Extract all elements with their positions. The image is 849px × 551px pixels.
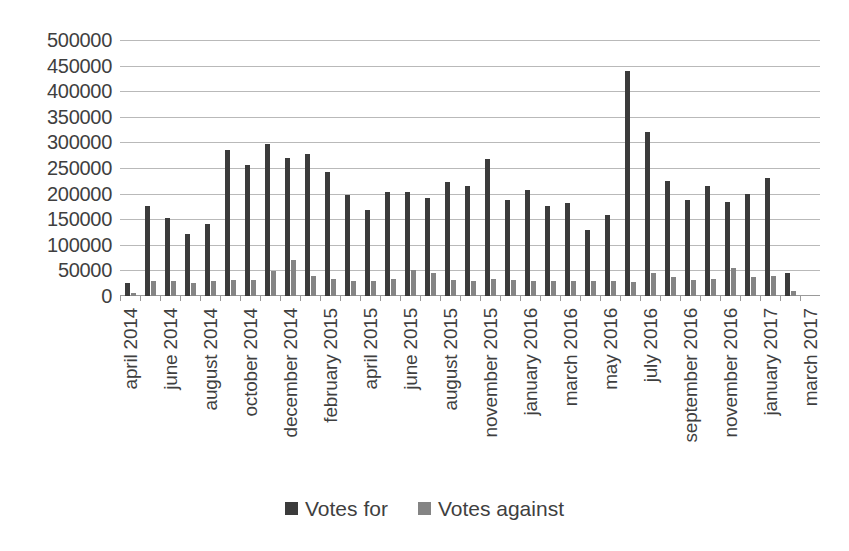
x-axis-tick (600, 296, 620, 302)
bar-group (600, 40, 620, 296)
x-axis-label-cell: january 2017 (760, 304, 780, 479)
x-axis-label: december 2014 (281, 308, 300, 437)
x-axis-tick (400, 296, 420, 302)
legend-item[interactable]: Votes for (285, 498, 388, 519)
x-axis-label-cell: may 2016 (600, 304, 620, 479)
x-axis-label-cell (220, 304, 240, 479)
bar-group (220, 40, 240, 296)
bar-votes-against (671, 277, 676, 296)
bars-layer (120, 40, 820, 296)
bar-votes-against (771, 276, 776, 296)
x-axis-tick (140, 296, 160, 302)
x-axis-label-cell: february 2015 (320, 304, 340, 479)
bar-votes-for (745, 194, 750, 296)
x-axis-tick (340, 296, 360, 302)
bar-votes-against (531, 281, 536, 296)
y-axis-tick-label: 150000 (47, 209, 112, 229)
bar-votes-for (605, 215, 610, 296)
x-axis-label: august 2015 (441, 308, 460, 410)
x-axis-label: january 2017 (761, 308, 780, 415)
x-axis-tick (620, 296, 640, 302)
x-axis-label-cell: april 2014 (120, 304, 140, 479)
x-axis-tick (780, 296, 800, 302)
bar-votes-against (431, 273, 436, 296)
bar-votes-for (545, 206, 550, 296)
x-axis-label-cell: august 2015 (440, 304, 460, 479)
x-axis-label-cell: april 2015 (360, 304, 380, 479)
x-axis-tick (280, 296, 300, 302)
bar-votes-against (311, 276, 316, 296)
x-axis-label-cell: november 2015 (480, 304, 500, 479)
bar-votes-for (225, 150, 230, 296)
bar-votes-for (425, 198, 430, 296)
bar-group (720, 40, 740, 296)
x-axis-tick (320, 296, 340, 302)
y-axis-tick-label: 50000 (58, 260, 112, 280)
x-axis-label-cell (780, 304, 800, 479)
bar-group (340, 40, 360, 296)
bar-group (400, 40, 420, 296)
bar-votes-against (691, 280, 696, 296)
x-axis-label-cell: november 2016 (720, 304, 740, 479)
bar-group (500, 40, 520, 296)
bar-votes-against (391, 279, 396, 296)
x-axis-tick (420, 296, 440, 302)
bar-group (300, 40, 320, 296)
x-axis-tick (120, 296, 140, 302)
x-axis-label: january 2016 (521, 308, 540, 415)
bar-votes-for (665, 181, 670, 296)
x-axis-label-cell: july 2016 (640, 304, 660, 479)
x-axis-label: november 2015 (481, 308, 500, 437)
bar-group (420, 40, 440, 296)
bar-group (180, 40, 200, 296)
bar-votes-for (165, 218, 170, 296)
x-axis-label: february 2015 (321, 308, 340, 423)
y-axis-tick-label: 450000 (47, 56, 112, 76)
legend-item[interactable]: Votes against (418, 498, 564, 519)
x-axis-label-cell (660, 304, 680, 479)
bar-votes-against (631, 282, 636, 296)
bar-votes-for (585, 230, 590, 296)
y-axis-tick-label: 100000 (47, 235, 112, 255)
bar-votes-against (751, 277, 756, 296)
bar-votes-against (491, 279, 496, 296)
bar-votes-for (785, 273, 790, 296)
y-axis-tick-label: 400000 (47, 81, 112, 101)
x-axis-label-cell (260, 304, 280, 479)
bar-votes-against (471, 281, 476, 296)
bar-votes-for (525, 190, 530, 296)
x-axis-tick (300, 296, 320, 302)
x-axis-label: august 2014 (201, 308, 220, 410)
y-axis-tick-label: 200000 (47, 184, 112, 204)
bar-group (200, 40, 220, 296)
x-axis-label-cell: march 2017 (800, 304, 820, 479)
bar-group (360, 40, 380, 296)
x-axis-label-cell: january 2016 (520, 304, 540, 479)
x-axis-tick (360, 296, 380, 302)
bar-votes-against (351, 281, 356, 296)
bar-votes-for (205, 224, 210, 296)
x-axis-label-cell (420, 304, 440, 479)
x-axis-labels: april 2014june 2014august 2014october 20… (120, 304, 820, 479)
x-axis-label: july 2016 (641, 308, 660, 382)
bar-group (380, 40, 400, 296)
x-axis-tick (200, 296, 220, 302)
bar-group (460, 40, 480, 296)
bar-group (240, 40, 260, 296)
bar-votes-for (245, 165, 250, 296)
bar-votes-against (211, 281, 216, 296)
x-axis-tick (220, 296, 240, 302)
x-axis-label-cell: december 2014 (280, 304, 300, 479)
x-axis-label-cell (740, 304, 760, 479)
bar-votes-for (285, 158, 290, 296)
x-axis-tick (500, 296, 520, 302)
x-axis-tick (580, 296, 600, 302)
bar-group (520, 40, 540, 296)
bar-group (160, 40, 180, 296)
x-axis-tick (800, 296, 820, 302)
bar-group (120, 40, 140, 296)
bar-group (760, 40, 780, 296)
y-axis-tick-label: 350000 (47, 107, 112, 127)
bar-votes-against (171, 281, 176, 296)
x-axis-label-cell: september 2016 (680, 304, 700, 479)
